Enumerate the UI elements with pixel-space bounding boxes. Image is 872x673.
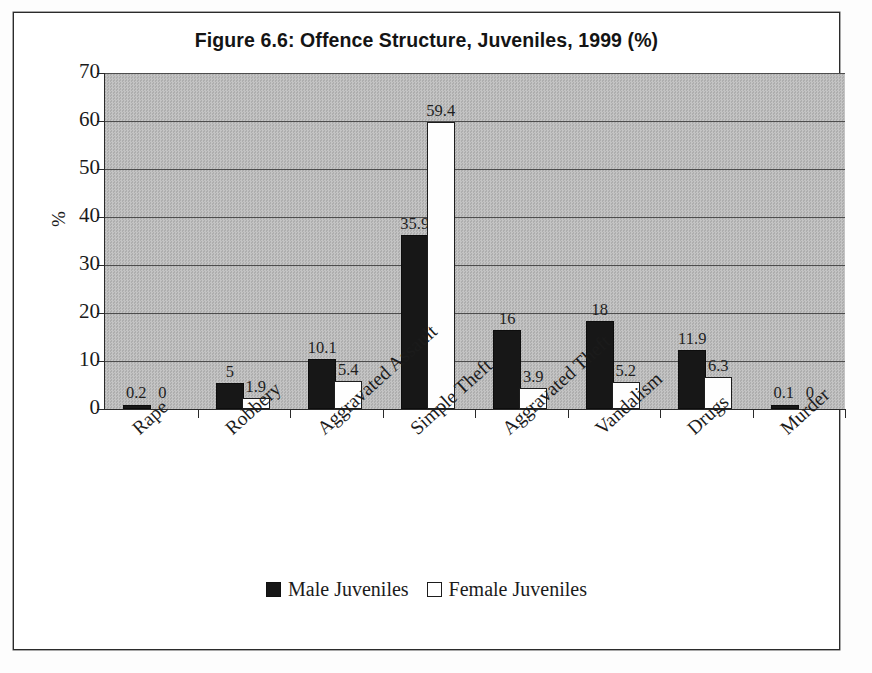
legend-item-female: Female Juveniles xyxy=(427,578,587,601)
x-axis-tick xyxy=(660,409,661,418)
bar-value-label: 5.4 xyxy=(338,360,359,380)
x-axis-tick xyxy=(753,409,754,418)
gridline xyxy=(105,73,845,74)
y-axis-tick-label: 20 xyxy=(40,301,100,322)
legend-swatch-female-icon xyxy=(427,582,442,597)
y-axis-tick-label: 70 xyxy=(40,61,100,82)
x-axis-tick xyxy=(198,409,199,418)
x-axis-tick xyxy=(290,409,291,418)
figure-frame: Figure 6.6: Offence Structure, Juveniles… xyxy=(13,12,840,650)
bar-value-label: 5.2 xyxy=(615,361,636,381)
bar-value-label: 6.3 xyxy=(708,356,729,376)
y-axis-tick-label: 10 xyxy=(40,349,100,370)
plot-wrapper: % 0102030405060700.2051.910.15.435.959.4… xyxy=(14,13,839,649)
gridline xyxy=(105,121,845,122)
bar-male[interactable]: 11.9 xyxy=(678,350,706,409)
gridline xyxy=(105,169,845,170)
bar-value-label: 10.1 xyxy=(308,338,337,358)
bar-value-label: 18 xyxy=(592,300,609,320)
bar-value-label: 59.4 xyxy=(426,101,455,121)
gridline xyxy=(105,313,845,314)
bar-value-label: 16 xyxy=(499,309,516,329)
legend-label-male: Male Juveniles xyxy=(288,578,409,601)
bar-value-label: 5 xyxy=(226,362,234,382)
x-axis-tick xyxy=(845,409,846,418)
x-axis-tick xyxy=(475,409,476,418)
y-axis-tick-label: 60 xyxy=(40,109,100,130)
x-axis-tick xyxy=(383,409,384,418)
y-axis-tick-label: 30 xyxy=(40,253,100,274)
y-axis-tick-label: 0 xyxy=(40,397,100,418)
y-axis-tick-label: 40 xyxy=(40,205,100,226)
bar-female[interactable]: 59.4 xyxy=(427,122,455,409)
chart-legend: Male Juveniles Female Juveniles xyxy=(14,578,839,601)
legend-label-female: Female Juveniles xyxy=(449,578,587,601)
gridline xyxy=(105,217,845,218)
gridline xyxy=(105,265,845,266)
legend-swatch-male-icon xyxy=(266,582,281,597)
bar-value-label: 11.9 xyxy=(678,329,706,349)
y-axis-tick-label: 50 xyxy=(40,157,100,178)
bar-value-label: 0.2 xyxy=(126,383,147,403)
x-axis-tick xyxy=(568,409,569,418)
bar-value-label: 35.9 xyxy=(400,214,429,234)
legend-item-male: Male Juveniles xyxy=(266,578,409,601)
bar-male[interactable]: 10.1 xyxy=(308,359,336,409)
bar-male[interactable]: 16 xyxy=(493,330,521,409)
bar-value-label: 0.1 xyxy=(773,383,794,403)
